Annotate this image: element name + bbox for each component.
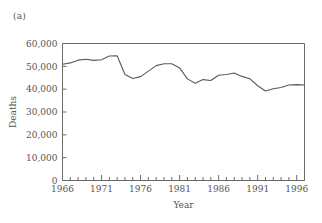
axes [63, 44, 305, 181]
x-tick-label: 1996 [285, 184, 308, 194]
figure-panel: (a) 010,00020,00030,00040,00050,00060,00… [0, 0, 322, 223]
y-tick-label: 50,000 [26, 62, 58, 72]
x-tick-label: 1976 [129, 184, 152, 194]
x-tick-label: 1966 [51, 184, 74, 194]
y-tick-label: 60,000 [26, 39, 58, 49]
deaths-line [63, 56, 305, 91]
y-tick-label: 40,000 [26, 84, 58, 94]
y-tick-label: 20,000 [26, 130, 58, 140]
x-tick-label: 1991 [246, 184, 269, 194]
tick-marks [63, 44, 305, 181]
line-chart: 010,00020,00030,00040,00050,00060,000196… [0, 0, 322, 223]
x-tick-label: 1986 [207, 184, 230, 194]
tick-labels: 010,00020,00030,00040,00050,00060,000196… [26, 39, 308, 194]
y-tick-label: 10,000 [26, 153, 58, 163]
x-axis-title: Year [172, 200, 194, 210]
x-tick-label: 1981 [168, 184, 191, 194]
x-tick-label: 1971 [90, 184, 113, 194]
y-axis-title: Deaths [8, 96, 18, 128]
data-series [63, 56, 305, 91]
y-tick-label: 30,000 [26, 107, 58, 117]
plot-frame [63, 44, 305, 181]
